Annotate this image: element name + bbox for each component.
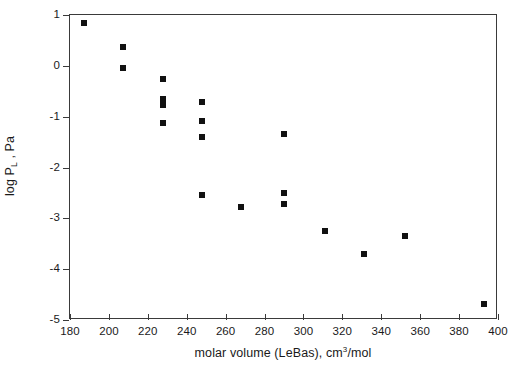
data-point <box>281 131 287 137</box>
x-tick-label: 340 <box>372 326 392 338</box>
data-point <box>160 76 166 82</box>
x-tick-mark <box>265 314 266 320</box>
x-tick-label: 180 <box>60 326 80 338</box>
data-point <box>199 134 205 140</box>
data-point <box>481 301 487 307</box>
x-tick-mark <box>303 314 304 320</box>
x-axis-title: molar volume (LeBas), cm3/mol <box>69 345 497 360</box>
y-tick-label: -3 <box>50 213 60 225</box>
x-tick-label: 320 <box>333 326 353 338</box>
x-tick-label: 360 <box>410 326 430 338</box>
y-tick-label: -1 <box>50 111 60 123</box>
x-tick-label: 280 <box>255 326 275 338</box>
y-tick-mark <box>63 218 69 219</box>
y-tick-mark <box>63 117 69 118</box>
data-point <box>281 201 287 207</box>
x-tick-label: 380 <box>449 326 469 338</box>
x-tick-label: 400 <box>488 326 508 338</box>
x-tick-mark <box>420 314 421 320</box>
data-point <box>322 228 328 234</box>
data-point <box>199 99 205 105</box>
data-point <box>199 118 205 124</box>
data-point <box>281 190 287 196</box>
y-tick-mark <box>63 168 69 169</box>
x-tick-mark <box>226 314 227 320</box>
y-tick-label: 0 <box>54 60 61 72</box>
data-point <box>402 233 408 239</box>
x-tick-mark <box>70 314 71 320</box>
x-tick-mark <box>498 314 499 320</box>
x-tick-label: 240 <box>177 326 197 338</box>
data-point <box>160 102 166 108</box>
data-point <box>160 120 166 126</box>
data-point <box>238 204 244 210</box>
data-point <box>160 96 166 102</box>
x-tick-mark <box>342 314 343 320</box>
y-tick-label: 1 <box>54 9 61 21</box>
y-tick-label: -2 <box>50 162 60 174</box>
x-tick-mark <box>109 314 110 320</box>
y-tick-mark <box>63 320 69 321</box>
x-tick-label: 300 <box>294 326 314 338</box>
y-tick-mark <box>63 269 69 270</box>
x-tick-label: 260 <box>216 326 236 338</box>
x-tick-mark <box>187 314 188 320</box>
y-tick-mark <box>63 66 69 67</box>
x-tick-label: 220 <box>138 326 158 338</box>
y-tick-label: -5 <box>50 314 60 326</box>
data-point <box>120 65 126 71</box>
scatter-plot-figure: 10-1-2-3-4-5 180200220240260280300320340… <box>0 0 516 371</box>
data-point <box>81 20 87 26</box>
x-tick-label: 200 <box>99 326 119 338</box>
x-tick-mark <box>381 314 382 320</box>
y-axis-title: log PL , Pa <box>3 136 20 196</box>
plot-frame: 10-1-2-3-4-5 180200220240260280300320340… <box>69 14 497 319</box>
data-point <box>199 192 205 198</box>
x-tick-mark <box>148 314 149 320</box>
y-tick-label: -4 <box>50 263 60 275</box>
x-tick-mark <box>459 314 460 320</box>
y-tick-mark <box>63 15 69 16</box>
data-point <box>361 251 367 257</box>
data-point <box>120 44 126 50</box>
